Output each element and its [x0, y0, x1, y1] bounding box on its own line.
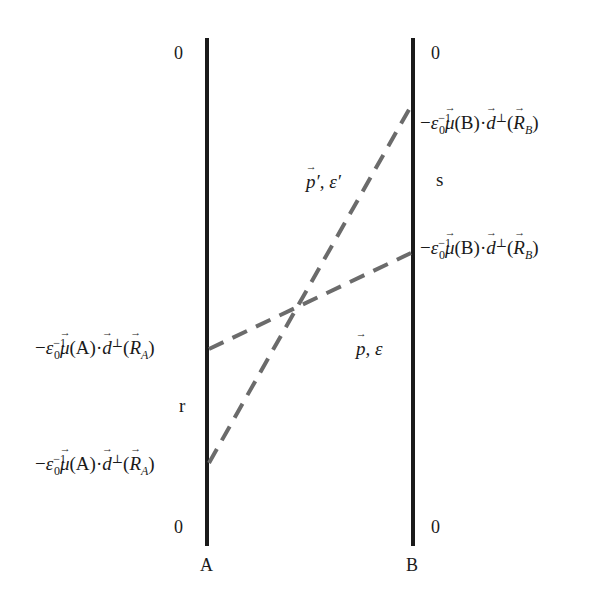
minus-sign: −	[420, 237, 431, 258]
perp-symbol: ⊥	[112, 336, 123, 350]
p-vector: p	[356, 339, 366, 358]
paren-close: )	[532, 112, 538, 133]
d-vector: d	[102, 454, 112, 473]
paren-close: )	[148, 453, 154, 474]
paren-close: )	[148, 337, 154, 358]
level-b-upper-label: −ε−10μ(B)·d⊥(RB)	[420, 112, 539, 136]
d-vector: d	[486, 238, 496, 257]
axis-a-bottom-zero: 0	[174, 518, 183, 536]
r-vector: R	[513, 238, 525, 257]
p-vector: p	[306, 172, 316, 191]
mu-vector: μ	[445, 238, 455, 257]
transition-line-upper-a-to-lower-b	[209, 253, 411, 349]
r-vector: R	[129, 454, 141, 473]
interval-label-r: r	[179, 396, 185, 415]
level-b-lower-label: −ε−10μ(B)·d⊥(RB)	[420, 237, 539, 261]
minus-sign: −	[420, 112, 431, 133]
mu-vector: μ	[60, 454, 70, 473]
diagram-lines	[0, 0, 613, 612]
mu-vector: μ	[60, 338, 70, 357]
level-a-lower-label: −ε−10μ(A)·d⊥(RA)	[35, 453, 155, 477]
d-vector: d	[486, 113, 496, 132]
argument: (A)	[70, 337, 96, 358]
region-label-unprimed: p, ε	[356, 339, 383, 358]
r-vector: R	[129, 338, 141, 357]
region-label-primed: p′, ε′	[306, 172, 341, 191]
r-vector: R	[513, 113, 525, 132]
d-vector: d	[102, 338, 112, 357]
argument: (B)	[455, 237, 480, 258]
paren-close: )	[532, 237, 538, 258]
axis-b-top-zero: 0	[431, 44, 440, 62]
axis-a-label: A	[200, 556, 213, 574]
mu-vector: μ	[445, 113, 455, 132]
argument: (B)	[455, 112, 480, 133]
region-symbols: ′, ε′	[316, 171, 341, 192]
axis-b-label: B	[406, 556, 418, 574]
perp-symbol: ⊥	[496, 111, 507, 125]
minus-sign: −	[35, 453, 46, 474]
axis-a-top-zero: 0	[174, 44, 183, 62]
axis-b-bottom-zero: 0	[431, 518, 440, 536]
interval-label-s: s	[436, 170, 443, 189]
level-a-upper-label: −ε−10μ(A)·d⊥(RA)	[35, 337, 155, 361]
perp-symbol: ⊥	[496, 236, 507, 250]
argument: (A)	[70, 453, 96, 474]
perp-symbol: ⊥	[112, 452, 123, 466]
minus-sign: −	[35, 337, 46, 358]
region-symbols: , ε	[366, 338, 383, 359]
dipole-coupling-diagram: 0 0 0 0 A B r s −ε−10μ(B)·d⊥(RB) −ε−10μ(…	[0, 0, 613, 612]
